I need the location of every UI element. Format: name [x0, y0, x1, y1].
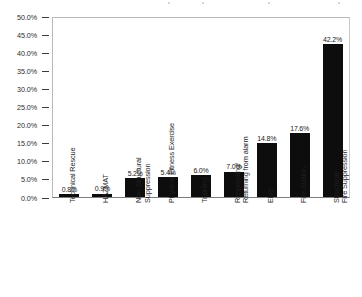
bar-slot: 0.9%: [92, 18, 112, 197]
y-axis-tick: 10.0%: [17, 157, 52, 167]
x-axis-label-line: Physical Fitness Exercise: [168, 123, 177, 203]
bar-slot: 14.8%: [257, 18, 277, 197]
scan-artifact: [150, 0, 362, 9]
x-axis-tick: Training: [184, 200, 217, 297]
y-axis-tick-label: 50.0%: [17, 13, 37, 22]
scan-speck: [168, 2, 170, 4]
y-axis-tick-mark: [42, 53, 49, 54]
y-axis-tick-label: 25.0%: [17, 103, 37, 112]
bar-value-label: 42.2%: [323, 36, 342, 43]
y-axis-tick-mark: [42, 143, 49, 144]
bar-value-label: 6.0%: [193, 167, 208, 174]
x-axis: Technical RescueHAZMATNon-StructuralSupp…: [52, 200, 350, 297]
y-axis-tick: 5.0%: [21, 175, 52, 185]
x-axis-tick: EMS: [249, 200, 282, 297]
y-axis-tick-mark: [42, 161, 49, 162]
y-axis-tick-mark: [42, 125, 49, 126]
x-axis-tick: Fire Station: [282, 200, 315, 297]
x-axis-label-line: HAZMAT: [102, 174, 111, 203]
y-axis-tick-mark: [42, 17, 49, 18]
y-axis-tick-mark: [42, 35, 49, 36]
x-axis-tick: Physical Fitness Exercise: [151, 200, 184, 297]
y-axis-tick-label: 30.0%: [17, 85, 37, 94]
x-axis-label-line: EMS: [267, 187, 276, 203]
y-axis-tick-mark: [42, 198, 49, 199]
x-axis-label-line: Returning from alarm: [242, 137, 251, 203]
bar-value-label: 14.8%: [257, 135, 276, 142]
y-axis-tick: 45.0%: [17, 30, 52, 40]
y-axis-tick-mark: [42, 179, 49, 180]
y-axis-tick-label: 20.0%: [17, 121, 37, 130]
y-axis-tick-label: 0.0%: [21, 194, 37, 203]
x-axis-label-line: Fire Suppression: [341, 150, 350, 203]
scan-speck: [338, 2, 340, 4]
x-axis-label-line: Suppression: [144, 164, 153, 203]
x-axis-label-line: Training: [201, 178, 210, 203]
y-axis-tick-mark: [42, 89, 49, 90]
x-axis-tick: HAZMAT: [85, 200, 118, 297]
y-axis-tick: 20.0%: [17, 121, 52, 131]
y-axis-tick: 15.0%: [17, 139, 52, 149]
y-axis-tick: 50.0%: [17, 12, 52, 22]
y-axis-tick-label: 5.0%: [21, 175, 37, 184]
x-axis-label-line: Fire Station: [300, 167, 309, 203]
y-axis-tick-mark: [42, 107, 49, 108]
y-axis-tick-label: 35.0%: [17, 67, 37, 76]
scan-speck: [268, 2, 270, 4]
x-axis-tick: Structural/Fire Suppression: [315, 200, 348, 297]
x-axis-tick: Technical Rescue: [52, 200, 85, 297]
y-axis-tick-label: 40.0%: [17, 49, 37, 58]
y-axis-tick: 25.0%: [17, 103, 52, 113]
x-axis-tick: Non-StructuralSuppression: [118, 200, 151, 297]
x-axis-label-line: Technical Rescue: [69, 147, 78, 203]
bar-chart-figure: 0.0%5.0%10.0%15.0%20.0%25.0%30.0%35.0%40…: [0, 0, 362, 297]
scan-speck: [202, 2, 204, 4]
y-axis-tick-label: 45.0%: [17, 31, 37, 40]
y-axis-tick-mark: [42, 71, 49, 72]
bar-value-label: 17.6%: [290, 125, 309, 132]
y-axis-tick: 0.0%: [21, 193, 52, 203]
y-axis-tick: 35.0%: [17, 66, 52, 76]
y-axis-tick-label: 10.0%: [17, 157, 37, 166]
bar-slot: 6.0%: [191, 18, 211, 197]
x-axis-tick: Responding/Returning from alarm: [216, 200, 249, 297]
y-axis: 0.0%5.0%10.0%15.0%20.0%25.0%30.0%35.0%40…: [0, 17, 52, 198]
y-axis-tick-label: 15.0%: [17, 139, 37, 148]
y-axis-tick: 40.0%: [17, 48, 52, 58]
y-axis-tick: 30.0%: [17, 84, 52, 94]
